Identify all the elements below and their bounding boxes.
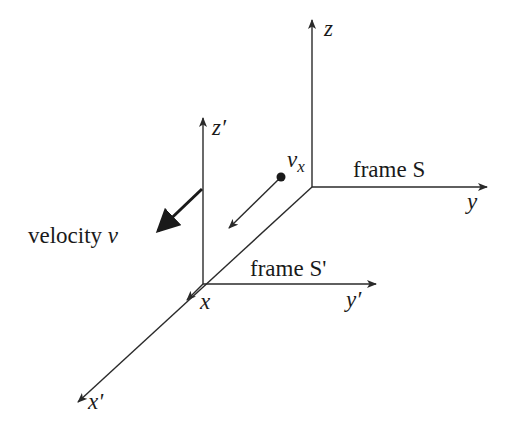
frames-diagram: z y x' frame S z′ y′ x frame S' velocity… xyxy=(0,0,517,432)
frame-s-prime-y-label: y′ xyxy=(346,288,361,311)
frame-s-prime-z-label: z′ xyxy=(212,116,226,139)
frame-s-label: frame S xyxy=(353,158,425,181)
particle-velocity-arrow xyxy=(229,178,280,228)
velocity-arrow xyxy=(158,189,202,231)
velocity-label: velocity v xyxy=(28,224,118,247)
diagram-lines xyxy=(0,0,517,432)
particle-dot xyxy=(277,173,286,182)
particle-velocity-label: vx xyxy=(287,148,305,171)
frame-s-prime-label: frame S' xyxy=(250,257,326,280)
frame-s-y-label: y xyxy=(467,190,477,213)
frame-s-x-label: x' xyxy=(88,390,103,413)
velocity-word: velocity xyxy=(28,223,102,248)
frame-s-x-axis xyxy=(78,187,312,402)
particle-velocity-subscript: x xyxy=(297,157,305,176)
frame-s-z-label: z xyxy=(324,17,333,40)
frame-s-prime-x-label: x xyxy=(200,290,210,313)
velocity-symbol: v xyxy=(108,223,118,248)
particle-velocity-main: v xyxy=(287,147,297,172)
